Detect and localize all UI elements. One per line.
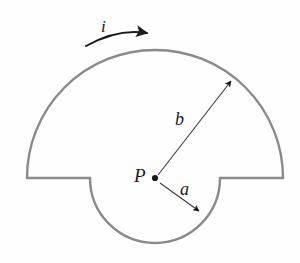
inner-arc-a: [90, 178, 220, 243]
physics-figure: i b a P: [0, 0, 300, 263]
current-direction-arrow: [86, 32, 147, 46]
wire-conductor: [27, 50, 283, 243]
radius-b-line: [158, 81, 231, 175]
outer-radius-label: b: [175, 110, 184, 128]
figure-canvas: [0, 0, 300, 263]
current-label: i: [101, 18, 106, 35]
center-point-label: P: [134, 166, 146, 185]
center-point-dot: [152, 175, 158, 181]
outer-arc-b: [27, 50, 283, 178]
inner-radius-label: a: [180, 180, 189, 198]
